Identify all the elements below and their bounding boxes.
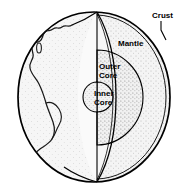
label-outer-core: Outer Core xyxy=(99,62,120,80)
crust-leader-line xyxy=(161,21,166,40)
earth-cutaway-diagram: Crust Mantle Outer Core Inner Core xyxy=(0,0,194,195)
label-inner-core: Inner Core xyxy=(94,89,114,107)
label-crust: Crust xyxy=(152,11,173,20)
label-mantle: Mantle xyxy=(118,39,143,48)
